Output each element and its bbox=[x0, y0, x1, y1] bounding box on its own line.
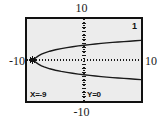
x-min-label: -10 bbox=[1, 55, 25, 67]
trace-cursor-icon bbox=[29, 56, 36, 63]
graph-plot bbox=[27, 19, 141, 101]
y-min-label: -10 bbox=[0, 106, 163, 118]
x-max-label: 10 bbox=[145, 55, 163, 67]
curve-upper-branch bbox=[33, 40, 141, 60]
graph-number-indicator: 1 bbox=[132, 21, 137, 31]
y-max-label: 10 bbox=[0, 2, 163, 14]
curve-lower-branch bbox=[33, 60, 141, 80]
trace-y-readout: Y=0 bbox=[87, 90, 101, 99]
calculator-screenshot: 10 -10 10 -10 bbox=[0, 0, 163, 122]
trace-x-readout: X=-9 bbox=[30, 90, 46, 99]
graph-display-frame[interactable]: 1 X=-9 Y=0 bbox=[25, 17, 143, 103]
